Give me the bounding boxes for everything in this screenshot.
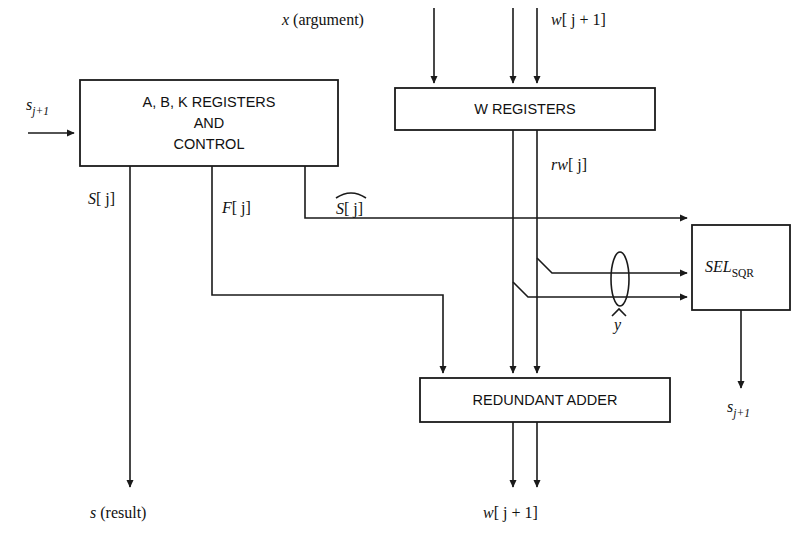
wreg-label: W REGISTERS	[474, 101, 576, 117]
adder-label: REDUNDANT ADDER	[473, 392, 618, 408]
label-s-input-sub: j+1	[30, 105, 49, 118]
label-S-hat-idx: [ j]	[344, 200, 363, 218]
label-s-input: sj+1	[26, 96, 49, 118]
S-hat-caret	[336, 193, 366, 198]
sel-sqr-sub: SQR	[732, 267, 755, 279]
label-S-j: S[ j]	[88, 190, 115, 208]
abk-label-line3: CONTROL	[174, 136, 245, 152]
label-F-j-idx: [ j]	[232, 199, 251, 217]
y-hat-bundle-ellipse	[611, 252, 629, 306]
label-w-out-base: w	[483, 504, 494, 521]
diagram-canvas: A, B, K REGISTERS AND CONTROL W REGISTER…	[0, 0, 808, 548]
label-S-hat-j: S[ j]	[336, 200, 363, 218]
label-S-j-base: S	[88, 190, 96, 207]
label-rw-base: rw	[551, 156, 568, 173]
label-w-in-base: w	[551, 11, 562, 28]
label-y-hat-group: y	[612, 309, 626, 334]
abk-label-line1: A, B, K REGISTERS	[143, 94, 276, 110]
label-s-output-sub: j+1	[731, 407, 750, 420]
label-F-j: F[ j]	[221, 199, 251, 217]
label-w-in-idx: [ j + 1]	[562, 11, 606, 29]
diagram-svg: A, B, K REGISTERS AND CONTROL W REGISTER…	[0, 0, 808, 548]
label-rw-idx: [ j]	[568, 156, 587, 174]
label-w-out: w[ j + 1]	[483, 504, 538, 522]
label-w-in: w[ j + 1]	[551, 11, 606, 29]
label-S-j-idx: [ j]	[96, 190, 115, 208]
label-F-j-base: F	[221, 199, 232, 216]
label-S-hat-base: S	[336, 200, 344, 217]
wire-F-j-to-adder	[212, 166, 443, 373]
y-hat-caret	[612, 309, 626, 316]
label-rw-j: rw[ j]	[551, 156, 587, 174]
label-s-result: s (result)	[90, 504, 146, 522]
label-w-out-idx: [ j + 1]	[494, 504, 538, 522]
label-x-argument: x x (argument)(argument)	[281, 11, 364, 29]
label-s-output: sj+1	[727, 398, 750, 420]
wire-tap-lower-to-sel	[513, 282, 687, 297]
abk-label-line2: AND	[194, 115, 225, 131]
sel-sqr-main: SEL	[705, 258, 732, 275]
label-y-hat: y	[612, 316, 622, 334]
label-S-hat-j-group: S[ j]	[336, 193, 366, 218]
